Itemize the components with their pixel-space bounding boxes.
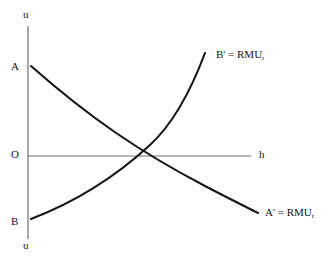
origin-label: O xyxy=(11,149,19,160)
curve-declining-end-label-text: A' = RMU xyxy=(265,206,312,218)
curve-rising-end-label: B' = RMUr xyxy=(216,49,264,60)
vertical-axis-label-bottom: u xyxy=(23,240,29,251)
curve-declining-start-label: A xyxy=(11,61,19,72)
curve-rising xyxy=(31,53,205,219)
curve-declining-end-label: A' = RMUr xyxy=(265,207,314,218)
vertical-axis-label-top: u xyxy=(23,9,29,20)
horizontal-axis-label: h xyxy=(259,149,265,160)
curve-declining-end-label-subscript: r xyxy=(312,212,314,220)
curve-rising-start-label: B xyxy=(11,216,18,227)
curve-rising-end-label-text: B' = RMU xyxy=(216,48,262,60)
diagram-canvas xyxy=(0,0,332,264)
curve-declining xyxy=(31,66,258,213)
economics-diagram: u u O h A B B' = RMUr A' = RMUr xyxy=(0,0,332,264)
